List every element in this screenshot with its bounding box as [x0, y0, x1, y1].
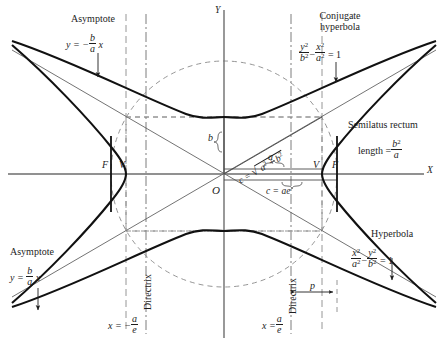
vertex-left-label: V	[119, 160, 125, 171]
hyperbola-equation: x2a2−y2b2 = 1	[351, 248, 393, 270]
semilatus-rectum-title: Semilatus rectum	[348, 120, 418, 131]
directrix-left-label: Directrix	[143, 274, 154, 310]
brace-b	[214, 132, 222, 152]
c-equals-ae-label: c = ae	[266, 187, 290, 197]
p-dimension-label: p	[310, 281, 315, 292]
vertex-right-label: V	[313, 160, 319, 171]
focus-left-label: F	[102, 160, 108, 171]
asymptote-top-equation: y = −ba x	[66, 33, 103, 54]
focus-right-label: F	[332, 160, 338, 171]
conjugate-hyperbola-title: Conjugate hyperbola	[300, 11, 380, 32]
asymptote-top-label: Asymptote	[71, 14, 115, 25]
asymptote-bottom-equation: y = ba x	[10, 266, 40, 287]
x-axis-label: X	[427, 166, 433, 176]
b-measure-label: b	[208, 133, 213, 144]
semilatus-rectum-equation: length =b2a	[358, 139, 402, 160]
conjugate-hyperbola-equation: y2b2−x2a2 = 1	[299, 42, 341, 64]
origin-label: O	[212, 185, 220, 197]
directrix-right-label: Directrix	[288, 278, 299, 314]
directrix-left-equation: x = −ae	[108, 314, 138, 335]
hyperbola-title: Hyperbola	[371, 229, 413, 240]
y-axis-label: Y	[215, 6, 220, 16]
asymptote-bottom-label: Asymptote	[10, 247, 54, 258]
directrix-right-equation: x =ae	[262, 314, 283, 335]
